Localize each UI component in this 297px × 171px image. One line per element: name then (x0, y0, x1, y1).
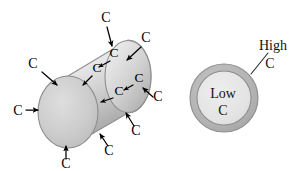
arrow-top (107, 27, 112, 46)
label-high-c-line1: High (259, 38, 287, 53)
label-c-bottom-left: C (61, 156, 70, 171)
carburizing-figure: C C C C C C C C C C C C High C Low C (0, 0, 297, 171)
label-c-upper-left: C (28, 56, 37, 71)
label-c-surface-4: C (114, 83, 123, 98)
label-c-top: C (101, 10, 110, 25)
label-low-c-line1: Low (210, 86, 237, 101)
cylinder-group: C C C C C C C C C C C C (13, 10, 162, 171)
label-c-left: C (13, 103, 22, 118)
label-c-surface-3: C (134, 70, 143, 85)
label-c-surface-2: C (92, 60, 101, 75)
label-c-upper-right: C (141, 30, 150, 45)
label-c-lower-right: C (131, 123, 140, 138)
cross-section-group: High C Low C (190, 38, 287, 132)
label-high-c-line2: C (265, 56, 274, 71)
label-c-bottom-right: C (104, 143, 113, 158)
figure-canvas: C C C C C C C C C C C C High C Low C (0, 0, 297, 171)
label-c-surface-1: C (109, 45, 118, 60)
label-c-right: C (153, 89, 162, 104)
cylinder-near-face (38, 76, 98, 148)
label-low-c-line2: C (218, 103, 227, 118)
